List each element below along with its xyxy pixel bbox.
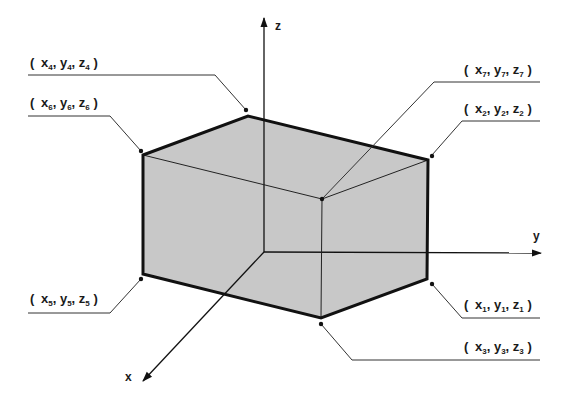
box-silhouette	[143, 116, 428, 318]
vertex-2-dot	[430, 154, 434, 158]
vertex-6-label: ( x6, y6, z6 )	[30, 95, 98, 113]
vertex-6-dot	[139, 149, 143, 153]
vertex-4-label: ( x4, y4, z4 )	[30, 55, 98, 73]
z-axis-label: z	[275, 19, 281, 33]
box	[143, 116, 428, 318]
vertex-5-dot	[139, 277, 143, 281]
vertex-1-dot	[430, 282, 434, 286]
vertex-2-label: ( x2, y2, z2 )	[464, 101, 532, 119]
vertex-7-label: ( x7, y7, z7 )	[464, 62, 532, 80]
vertex-1-label: ( x1, y1, z1 )	[464, 297, 532, 315]
x-axis-label: x	[125, 370, 132, 384]
box-coordinate-diagram: z y x ( x4, y4, z4 ) ( x6,	[0, 0, 568, 399]
vertex-3-dot	[319, 322, 323, 326]
vertex-7-dot	[320, 197, 324, 201]
y-axis-label: y	[533, 229, 540, 243]
vertex-3-label: ( x3, y3, z3 )	[464, 339, 532, 357]
vertex-5-label: ( x5, y5, z5 )	[30, 291, 98, 309]
vertex-4-dot	[244, 108, 248, 112]
